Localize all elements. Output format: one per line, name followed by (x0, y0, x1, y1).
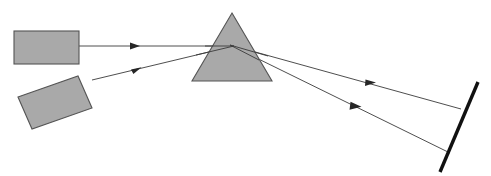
source-block-upper (14, 31, 79, 64)
optics-ray-diagram-svg (0, 0, 491, 176)
optics-diagram (0, 0, 491, 176)
